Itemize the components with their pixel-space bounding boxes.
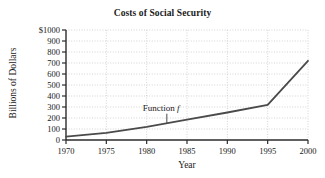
y-tick-label: $1000: [6, 26, 60, 35]
x-tick-label: 1990: [207, 147, 247, 156]
y-tick-label: 0: [6, 136, 60, 145]
y-tick-label: 600: [6, 70, 60, 79]
x-tick-label: 1975: [86, 147, 126, 156]
x-axis-label: Year: [66, 160, 308, 170]
y-tick-label: 400: [6, 92, 60, 101]
x-tick-label: 2000: [288, 147, 325, 156]
y-tick-label: 500: [6, 81, 60, 90]
chart-figure: Costs of Social Security Billions of Dol…: [0, 0, 325, 178]
y-tick-label: 700: [6, 59, 60, 68]
x-tick-label: 1980: [127, 147, 167, 156]
annotation-function-symbol: f: [177, 103, 180, 113]
x-tick-label: 1970: [46, 147, 86, 156]
y-tick-label: 100: [6, 125, 60, 134]
x-tick-label: 1995: [248, 147, 288, 156]
x-tick-label: 1985: [167, 147, 207, 156]
y-tick-label: 900: [6, 37, 60, 46]
y-tick-label: 800: [6, 48, 60, 57]
y-tick-label: 200: [6, 114, 60, 123]
y-tick-label: 300: [6, 103, 60, 112]
annotation-function-f: Function f: [143, 103, 180, 113]
